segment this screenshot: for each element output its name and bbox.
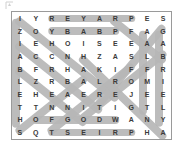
grid-cell[interactable]: Y xyxy=(28,12,44,25)
grid-cell[interactable]: H xyxy=(44,37,60,50)
grid-cell[interactable]: I xyxy=(107,101,123,114)
grid-cell[interactable]: P xyxy=(107,25,123,38)
grid-cell[interactable]: I xyxy=(107,63,123,76)
grid-cell[interactable]: F xyxy=(28,63,44,76)
grid-cell[interactable]: I xyxy=(76,37,92,50)
grid-cell[interactable]: A xyxy=(91,12,107,25)
grid-cell[interactable]: L xyxy=(12,75,28,88)
grid-cell[interactable]: S xyxy=(91,37,107,50)
grid-cell[interactable]: F xyxy=(139,63,155,76)
grid-cell[interactable]: R xyxy=(107,12,123,25)
grid-cell[interactable]: E xyxy=(123,37,139,50)
grid-cell[interactable]: N xyxy=(60,101,76,114)
grid-cell[interactable]: B xyxy=(91,25,107,38)
grid-cell[interactable]: L xyxy=(91,75,107,88)
grid-cell[interactable]: Z xyxy=(28,75,44,88)
grid-cell[interactable]: E xyxy=(12,88,28,101)
grid-cell[interactable]: B xyxy=(60,25,76,38)
grid-cell[interactable]: P xyxy=(123,126,139,139)
grid-cell[interactable]: P xyxy=(123,12,139,25)
grid-cell[interactable]: A xyxy=(76,63,92,76)
grid-cell[interactable]: T xyxy=(44,126,60,139)
grid-cell[interactable]: R xyxy=(44,63,60,76)
grid-cell[interactable]: Y xyxy=(44,25,60,38)
grid-cell[interactable]: S xyxy=(155,12,171,25)
grid-cell[interactable]: R xyxy=(155,63,171,76)
grid-cell[interactable]: R xyxy=(91,88,107,101)
grid-cell[interactable]: O xyxy=(76,114,92,127)
grid-cell[interactable]: L xyxy=(155,101,171,114)
grid-cell[interactable]: A xyxy=(76,25,92,38)
grid-cell[interactable]: H xyxy=(139,126,155,139)
grid-cell[interactable]: I xyxy=(12,37,28,50)
grid-cell[interactable]: F xyxy=(44,114,60,127)
grid-cell[interactable]: A xyxy=(155,37,171,50)
grid-cell[interactable]: T xyxy=(91,101,107,114)
grid-cell[interactable]: Z xyxy=(91,50,107,63)
grid-cell[interactable]: N xyxy=(139,114,155,127)
grid-cell[interactable]: A xyxy=(155,126,171,139)
grid-cell[interactable]: A xyxy=(107,50,123,63)
grid-cell[interactable]: E xyxy=(107,88,123,101)
grid-cell[interactable]: S xyxy=(12,126,28,139)
grid-cell[interactable]: E xyxy=(155,88,171,101)
grid-cell[interactable]: B xyxy=(155,50,171,63)
grid-cell[interactable]: O xyxy=(28,25,44,38)
grid-cell[interactable]: I xyxy=(76,101,92,114)
grid-cell[interactable]: C xyxy=(28,50,44,63)
grid-cell[interactable]: R xyxy=(107,126,123,139)
grid-cell[interactable]: E xyxy=(60,12,76,25)
grid-cell[interactable]: G xyxy=(155,25,171,38)
grid-cell[interactable]: H xyxy=(12,114,28,127)
grid-cell[interactable]: I xyxy=(155,75,171,88)
grid-cell[interactable]: E xyxy=(44,88,60,101)
grid-cell[interactable]: E xyxy=(139,12,155,25)
grid-cell[interactable]: G xyxy=(123,101,139,114)
grid-cell[interactable]: O xyxy=(123,75,139,88)
letter-grid[interactable]: IYREYARPESZOYBABPFAGIEHOISEEAAACCNHZASLB… xyxy=(12,12,171,139)
grid-cell[interactable]: I xyxy=(12,12,28,25)
grid-cell[interactable]: R xyxy=(107,75,123,88)
grid-cell[interactable]: S xyxy=(123,50,139,63)
grid-cell[interactable]: L xyxy=(139,50,155,63)
grid-cell[interactable]: N xyxy=(44,101,60,114)
grid-cell[interactable]: Y xyxy=(155,114,171,127)
grid-cell[interactable]: A xyxy=(139,25,155,38)
grid-cell[interactable]: E xyxy=(28,37,44,50)
grid-cell[interactable]: Y xyxy=(76,12,92,25)
grid-cell[interactable]: I xyxy=(91,126,107,139)
grid-cell[interactable]: A xyxy=(76,75,92,88)
grid-cell[interactable]: R xyxy=(44,75,60,88)
grid-cell[interactable]: H xyxy=(76,50,92,63)
grid-cell[interactable]: E xyxy=(76,126,92,139)
grid-cell[interactable]: C xyxy=(44,50,60,63)
grid-cell[interactable]: T xyxy=(139,101,155,114)
grid-cell[interactable]: A xyxy=(12,50,28,63)
grid-cell[interactable]: M xyxy=(139,75,155,88)
grid-cell[interactable]: H xyxy=(60,63,76,76)
grid-cell[interactable]: J xyxy=(123,88,139,101)
grid-cell[interactable]: E xyxy=(107,37,123,50)
grid-cell[interactable]: Z xyxy=(12,25,28,38)
grid-cell[interactable]: E xyxy=(139,88,155,101)
grid-cell[interactable]: R xyxy=(44,12,60,25)
grid-cell[interactable]: G xyxy=(60,114,76,127)
grid-cell[interactable]: S xyxy=(60,126,76,139)
grid-cell[interactable]: N xyxy=(60,50,76,63)
word-search-grid-panel[interactable]: IYREYARPESZOYBABPFAGIEHOISEEAAACCNHZASLB… xyxy=(11,11,172,140)
grid-cell[interactable]: B xyxy=(12,63,28,76)
grid-cell[interactable]: E xyxy=(76,88,92,101)
grid-cell[interactable]: A xyxy=(139,37,155,50)
grid-cell[interactable]: A xyxy=(123,114,139,127)
grid-cell[interactable]: K xyxy=(91,63,107,76)
grid-cell[interactable]: O xyxy=(60,37,76,50)
grid-cell[interactable]: D xyxy=(91,114,107,127)
grid-cell[interactable]: F xyxy=(123,25,139,38)
grid-cell[interactable]: T xyxy=(28,101,44,114)
grid-cell[interactable]: Q xyxy=(28,126,44,139)
grid-cell[interactable]: F xyxy=(123,63,139,76)
grid-cell[interactable]: O xyxy=(28,114,44,127)
grid-cell[interactable]: H xyxy=(28,88,44,101)
grid-cell[interactable]: T xyxy=(12,101,28,114)
grid-cell[interactable]: W xyxy=(107,114,123,127)
